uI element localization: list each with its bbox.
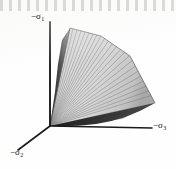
axis-label-sigma3-subscript: 3 <box>163 125 166 131</box>
scan-artifact-strip <box>0 0 176 11</box>
axis-label-sigma2-subscript: 2 <box>20 152 23 158</box>
cone-surface <box>50 28 155 126</box>
axis-sigma3-line <box>50 126 152 128</box>
axis-label-sigma2: −σ2 <box>10 148 23 158</box>
stress-space-figure: −σ1 −σ2 −σ3 <box>0 0 176 169</box>
cone-graphic <box>0 0 176 169</box>
axis-sigma2-line <box>18 126 50 150</box>
axis-label-sigma1-symbol: −σ <box>31 11 41 21</box>
axis-label-sigma1: −σ1 <box>31 12 44 22</box>
axis-label-sigma1-subscript: 1 <box>41 16 44 22</box>
axis-label-sigma2-symbol: −σ <box>10 147 20 157</box>
axis-label-sigma3-symbol: −σ <box>153 120 163 130</box>
axis-label-sigma3: −σ3 <box>153 121 166 131</box>
